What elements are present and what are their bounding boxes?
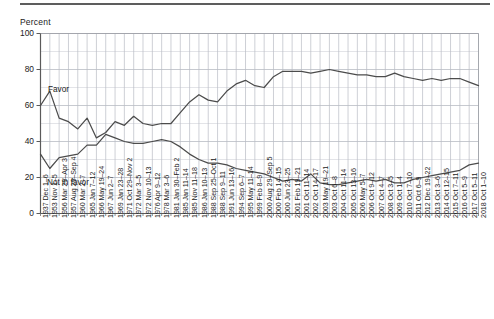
series-label-not-in-favor: Not in favor	[47, 178, 89, 187]
grid-layer	[41, 34, 479, 214]
series-layer	[41, 70, 479, 185]
series-label-favor: Favor	[48, 85, 69, 94]
y-tick-label: 60	[12, 100, 34, 110]
y-tick-label: 100	[12, 28, 34, 38]
series-line-favor	[41, 70, 479, 138]
axis-layer	[37, 34, 479, 217]
y-tick-label: 0	[12, 208, 34, 218]
y-tick-label: 20	[12, 172, 34, 182]
chart-page: Percent 020406080100 1937 Dec 1–61953 No…	[0, 0, 494, 319]
line-chart	[0, 0, 494, 319]
y-tick-label: 40	[12, 136, 34, 146]
y-tick-label: 80	[12, 64, 34, 74]
